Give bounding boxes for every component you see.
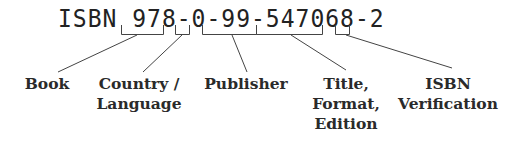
leader-verification (346, 35, 452, 68)
label-title-line-3: Edition (312, 114, 380, 134)
label-book: Book (25, 74, 70, 94)
label-country-language: Country / Language (96, 74, 181, 114)
label-isbn-verification: ISBN Verification (398, 74, 498, 114)
bracket-publisher (203, 25, 257, 35)
label-title-line-2: Format, (312, 94, 380, 114)
label-verification-line-1: ISBN (398, 74, 498, 94)
bracket-title (257, 25, 323, 35)
label-verification-line-2: Verification (398, 94, 498, 114)
leader-book (58, 35, 137, 72)
bracket-and-leader-lines (0, 0, 528, 144)
label-book-line-1: Book (25, 74, 70, 94)
bracket-verification (336, 25, 350, 35)
bracket-book (122, 25, 164, 35)
bracket-country (176, 25, 190, 35)
label-country-line-1: Country / (96, 74, 181, 94)
isbn-diagram: ISBN 978-0-99-547068-2 Book Country / La… (0, 0, 528, 144)
leader-country (143, 35, 182, 72)
label-country-line-2: Language (96, 94, 181, 114)
label-publisher: Publisher (204, 74, 288, 94)
leader-title (291, 35, 346, 70)
leader-publisher (232, 35, 247, 72)
label-title-format-edition: Title, Format, Edition (312, 74, 380, 134)
label-title-line-1: Title, (312, 74, 380, 94)
label-publisher-line-1: Publisher (204, 74, 288, 94)
